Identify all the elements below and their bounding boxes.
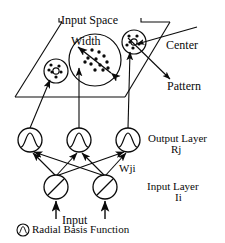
rbf-network-diagram: Input Space Width Center Pattern Output … xyxy=(0,0,225,243)
pattern-annotation-arrow xyxy=(128,38,170,79)
connector-node1-to-left-cluster xyxy=(30,80,50,128)
diagram-canvas xyxy=(0,0,225,243)
label-output-layer-symbol: Rj xyxy=(171,144,181,156)
label-input-layer: Input Layer xyxy=(147,181,199,193)
label-input-space: Input Space xyxy=(61,14,118,27)
weight-in1-out1 xyxy=(33,153,56,176)
weight-in1-out3 xyxy=(56,152,124,176)
pattern-points-left xyxy=(47,63,62,78)
input-space-plane xyxy=(15,18,170,97)
label-center: Center xyxy=(166,39,198,52)
input-node-2[interactable] xyxy=(93,175,117,199)
input-node-1[interactable] xyxy=(44,175,68,199)
label-legend-radial-basis-function: Radial Basis Function xyxy=(32,224,129,236)
label-pattern: Pattern xyxy=(167,80,201,93)
label-weights: Wji xyxy=(119,163,136,175)
label-width: Width xyxy=(71,35,101,48)
output-node-2[interactable] xyxy=(67,128,91,152)
label-input-layer-symbol: Ii xyxy=(175,192,182,204)
output-node-3[interactable] xyxy=(116,128,140,152)
left-cluster-circle xyxy=(44,59,68,83)
weight-connections xyxy=(33,152,126,176)
output-node-1[interactable] xyxy=(18,128,42,152)
radial-basis-function-icon xyxy=(17,224,29,236)
left-cluster-center-marker xyxy=(53,68,59,74)
